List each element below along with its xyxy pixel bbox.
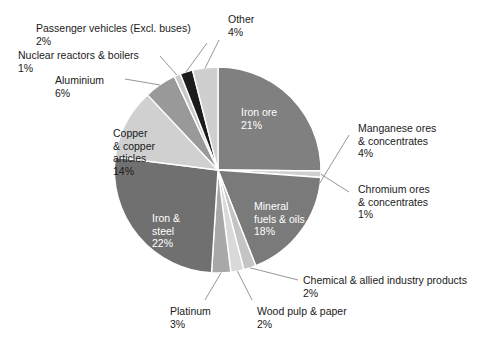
slice-label-chromium-line1: Chromium ores: [358, 183, 430, 195]
slice-label-iron-steel-percent: 22%: [152, 237, 180, 250]
leader-line-nuclear-reactors-boilers: [160, 56, 177, 75]
slice-label-mineral-fuels-oils-line2: fuels & oils: [254, 213, 305, 226]
slice-label-iron-steel: Iron & steel 22%: [152, 212, 180, 250]
slice-label-copper-line1: Copper: [113, 127, 147, 139]
slice-label-manganese-ores: Manganese ores & concentrates 4%: [358, 122, 436, 160]
slice-label-nuclear-reactors-text: Nuclear reactors & boilers: [18, 49, 139, 61]
slice-label-iron-ore: Iron ore 21%: [241, 106, 277, 131]
slice-label-iron-steel-line1: Iron &: [152, 212, 180, 224]
slice-label-copper-line2: & copper: [113, 140, 155, 153]
slice-label-nuclear-reactors-percent: 1%: [18, 62, 139, 75]
slice-label-passenger-vehicles-text: Passenger vehicles (Excl. buses): [36, 22, 191, 34]
slice-label-iron-steel-line2: steel: [152, 225, 180, 238]
slice-label-chemical-percent: 2%: [303, 287, 467, 300]
slice-label-aluminium-percent: 6%: [55, 87, 104, 100]
slice-label-platinum: Platinum 3%: [170, 305, 211, 330]
slice-label-other: Other 4%: [228, 13, 254, 38]
slice-label-wood-pulp-text: Wood pulp & paper: [257, 305, 347, 317]
slice-label-other-text: Other: [228, 13, 254, 25]
slice-label-manganese-line1: Manganese ores: [358, 122, 436, 134]
slice-label-copper-copper-articles: Copper & copper articles 14%: [113, 127, 155, 177]
slice-label-chromium-ores: Chromium ores & concentrates 1%: [358, 183, 430, 221]
slice-label-platinum-percent: 3%: [170, 318, 211, 331]
slice-label-chemical-allied-industry-products: Chemical & allied industry products 2%: [303, 274, 467, 299]
leader-line-chromium-ores: [321, 174, 349, 192]
slice-label-chemical-text: Chemical & allied industry products: [303, 274, 467, 286]
slice-label-other-percent: 4%: [228, 26, 254, 39]
slice-label-copper-line3: articles: [113, 152, 155, 165]
leader-line-wood-pulp-paper: [237, 271, 252, 300]
slice-label-mineral-fuels-oils-line1: Mineral: [254, 200, 288, 212]
pie-chart-figure: Iron ore 21% Mineral fuels & oils 18% Ir…: [0, 0, 487, 345]
slice-label-chromium-line2: & concentrates: [358, 196, 430, 209]
leader-line-aluminium: [125, 79, 160, 85]
slice-label-mineral-fuels-oils: Mineral fuels & oils 18%: [254, 200, 305, 238]
slice-label-manganese-percent: 4%: [358, 147, 436, 160]
leader-line-other: [205, 40, 219, 68]
slice-label-nuclear-reactors-boilers: Nuclear reactors & boilers 1%: [18, 49, 139, 74]
slice-label-wood-pulp-paper: Wood pulp & paper 2%: [257, 305, 347, 330]
slice-label-copper-percent: 14%: [113, 165, 155, 178]
slice-label-passenger-vehicles: Passenger vehicles (Excl. buses) 2%: [36, 22, 191, 47]
slice-label-mineral-fuels-oils-percent: 18%: [254, 225, 305, 238]
slice-label-manganese-line2: & concentrates: [358, 135, 436, 148]
leader-line-platinum: [205, 273, 221, 300]
slice-label-chromium-percent: 1%: [358, 208, 430, 221]
slice-label-iron-ore-text: Iron ore: [241, 106, 277, 118]
slice-label-wood-pulp-percent: 2%: [257, 318, 347, 331]
slice-label-platinum-text: Platinum: [170, 305, 211, 317]
slice-label-passenger-vehicles-percent: 2%: [36, 35, 191, 48]
slice-label-iron-ore-percent: 21%: [241, 119, 277, 132]
leader-line-chemical-allied-industry-products: [250, 268, 298, 280]
slice-label-aluminium-text: Aluminium: [55, 74, 104, 86]
slice-label-aluminium: Aluminium 6%: [55, 74, 104, 99]
